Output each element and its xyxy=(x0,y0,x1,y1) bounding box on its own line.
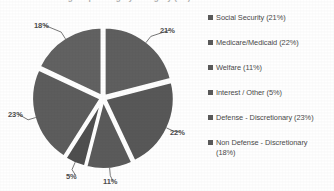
pie-slices-group xyxy=(32,27,174,169)
legend-swatch-icon xyxy=(208,65,213,70)
pie-slice-label: 11% xyxy=(103,177,117,186)
legend-item[interactable]: Interest / Other (5%) xyxy=(208,88,334,98)
legend-swatch-icon xyxy=(208,90,213,95)
legend-item[interactable]: Non Defense - Discretionary (18%) xyxy=(208,138,334,157)
pie-slice-label: 22% xyxy=(170,128,185,137)
legend-swatch-icon xyxy=(208,140,213,145)
chart-legend: Social Security (21%)Medicare/Medicaid (… xyxy=(208,10,334,185)
legend-item-label: Non Defense - Discretionary (18%) xyxy=(216,138,307,157)
legend-item[interactable]: Social Security (21%) xyxy=(208,13,334,23)
legend-item-label: Social Security (21%) xyxy=(216,13,286,23)
legend-item-label: Welfare (11%) xyxy=(216,63,262,73)
legend-swatch-icon xyxy=(208,15,213,20)
pie-slice-label: 21% xyxy=(160,26,175,35)
pie-slice-label: 23% xyxy=(8,110,23,119)
legend-item-label: Interest / Other (5%) xyxy=(216,88,282,98)
pie-slice-label: 18% xyxy=(34,21,49,30)
legend-swatch-icon xyxy=(208,40,213,45)
pie-slice-label: 5% xyxy=(66,172,77,181)
legend-swatch-icon xyxy=(208,115,213,120)
pie-plot-area: 21%22%11%5%23%18% xyxy=(0,0,208,191)
pie-chart-figure: Federal Budget Spending by Category (FY)… xyxy=(0,0,334,191)
legend-item[interactable]: Welfare (11%) xyxy=(208,63,334,73)
legend-item-label: Medicare/Medicaid (22%) xyxy=(216,38,299,48)
pie-svg xyxy=(0,0,208,191)
legend-item[interactable]: Defense - Discretionary (23%) xyxy=(208,113,334,123)
legend-item[interactable]: Medicare/Medicaid (22%) xyxy=(208,38,334,48)
legend-item-label: Defense - Discretionary (23%) xyxy=(216,113,314,123)
